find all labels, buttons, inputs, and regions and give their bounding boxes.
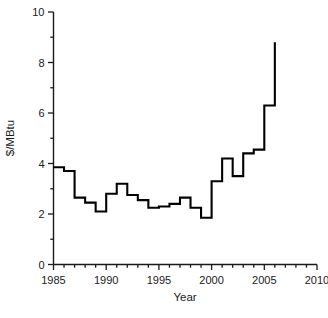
y-tick-label: 2	[38, 208, 44, 220]
y-tick-label: 10	[32, 6, 44, 18]
axis-spines	[54, 12, 318, 265]
x-tick-label: 2005	[252, 274, 276, 286]
y-tick-label: 6	[38, 107, 44, 119]
x-tick-label: 2010	[305, 274, 328, 286]
x-tick-label: 1995	[147, 274, 171, 286]
data-series-group	[54, 42, 275, 217]
y-axis-title: $/MBtu	[4, 120, 16, 156]
price-series-line	[54, 42, 275, 217]
y-axis-tick-labels: 0246810	[32, 6, 44, 271]
chart-figure: 0246810 198519901995200020052010 Year $/…	[0, 0, 328, 318]
y-tick-label: 0	[38, 259, 44, 271]
y-tick-label: 4	[38, 158, 44, 170]
x-axis-ticks	[54, 265, 318, 271]
x-tick-label: 1985	[41, 274, 65, 286]
x-axis-tick-labels: 198519901995200020052010	[41, 274, 328, 286]
x-tick-label: 1990	[94, 274, 118, 286]
x-axis-title: Year	[173, 291, 196, 303]
price-step-chart: 0246810 198519901995200020052010 Year $/…	[0, 0, 328, 318]
y-axis-ticks	[48, 12, 54, 265]
x-tick-label: 2000	[199, 274, 223, 286]
y-tick-label: 8	[38, 57, 44, 69]
